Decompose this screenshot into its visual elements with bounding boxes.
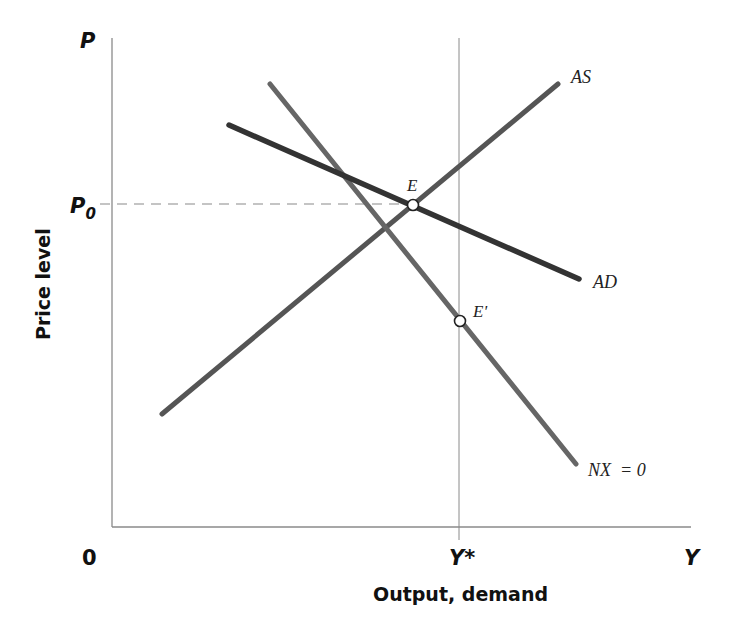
ad-as-diagram: E E' AS AD NX = 0 P P0 0 Y* Y Output, de… (0, 0, 734, 633)
point-e-marker (408, 200, 419, 211)
y-axis-symbol: P (80, 29, 96, 53)
x-axis-title: Output, demand (373, 583, 548, 605)
ad-curve (229, 125, 579, 279)
point-e-label: E (406, 176, 418, 195)
nx-zero-label: NX = 0 (587, 460, 646, 480)
y-axis-title: Price level (32, 228, 54, 340)
point-e-prime-marker (455, 316, 466, 327)
point-e-prime-label: E' (472, 302, 487, 321)
p0-tick-label: P0 (70, 194, 96, 223)
origin-label: 0 (82, 546, 97, 570)
x-axis-symbol: Y (684, 546, 701, 570)
as-curve-label: AS (570, 67, 591, 87)
ad-curve-label: AD (592, 272, 617, 292)
nx-zero-curve (270, 84, 576, 464)
ystar-tick-label: Y* (449, 546, 475, 570)
